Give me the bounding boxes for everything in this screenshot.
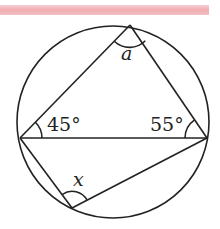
- label-55: 55°: [150, 113, 184, 135]
- angle-arc-45: [35, 122, 42, 138]
- inscribed-angle-diagram: a 45° 55° x: [0, 0, 220, 229]
- label-45: 45°: [47, 113, 81, 135]
- label-x: x: [73, 168, 84, 190]
- angle-arc-55: [185, 120, 195, 138]
- segment-bottom-right: [72, 138, 207, 208]
- label-a: a: [121, 42, 132, 64]
- segment-left-bottom: [20, 138, 72, 208]
